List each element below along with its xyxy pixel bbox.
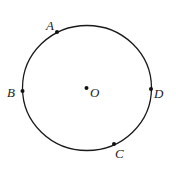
point-a — [55, 30, 59, 34]
point-o — [85, 86, 89, 90]
label-b: B — [7, 85, 15, 100]
label-o: O — [90, 85, 100, 100]
circle-diagram: ABODC — [0, 0, 176, 170]
label-d: D — [153, 86, 164, 101]
point-d — [149, 87, 153, 91]
point-b — [21, 89, 25, 93]
label-a: A — [45, 18, 54, 33]
label-c: C — [115, 146, 124, 161]
